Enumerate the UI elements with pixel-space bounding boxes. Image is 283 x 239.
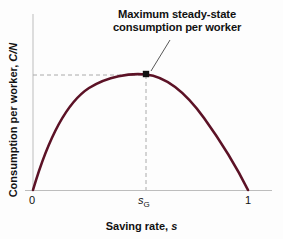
y-axis-title-container: Consumption per worker, C/N [0,0,26,239]
x-tick-label-1: 1 [245,194,251,206]
peak-marker-icon [143,71,149,77]
x-tick-label-sg: sG [138,194,150,209]
x-axis-title: Saving rate, s [0,220,283,232]
annotation-line-1: Maximum steady-state [118,8,236,21]
x-axis-title-symbol: s [171,220,177,232]
x-tick-label-0: 0 [29,194,35,206]
y-axis-title-symbol: C/N [7,42,19,61]
y-axis-title-text: Consumption per worker, [7,61,19,197]
y-axis-title: Consumption per worker, C/N [7,42,19,197]
x-tick-label-sg-subscript: G [144,200,150,209]
annotation-leader-line [151,40,170,71]
chart-figure: Maximum steady-state consumption per wor… [0,0,283,239]
consumption-curve [33,74,248,190]
x-axis-title-text: Saving rate, [106,220,171,232]
annotation-line-2: consumption per worker [113,21,241,34]
